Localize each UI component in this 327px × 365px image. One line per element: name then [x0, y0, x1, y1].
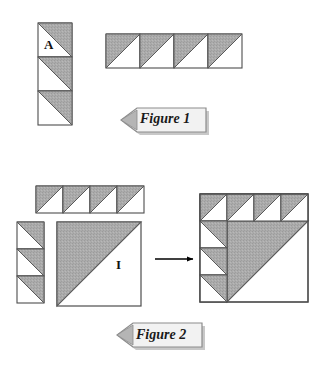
assembled-result-square [200, 194, 308, 302]
result-top-row [200, 194, 308, 221]
fig1-vertical-tile-column [38, 23, 72, 125]
fig2-vertical-tile-column [17, 222, 44, 303]
result-left-column [200, 221, 227, 302]
figure-1-banner [121, 108, 209, 135]
figures-canvas [0, 0, 327, 365]
banner-arrow-head [117, 325, 133, 345]
fig1-horizontal-tile-strip [106, 34, 242, 68]
figure-2-group [17, 186, 308, 350]
figure-stage: A I Figure 1 Figure 2 [0, 0, 327, 365]
banner-arrow-head [121, 110, 137, 130]
fig2-large-half-shaded-square [57, 222, 141, 306]
figure-2-banner [117, 323, 205, 350]
fig2-horizontal-tile-strip [36, 186, 144, 213]
figure-1-group [38, 23, 242, 135]
